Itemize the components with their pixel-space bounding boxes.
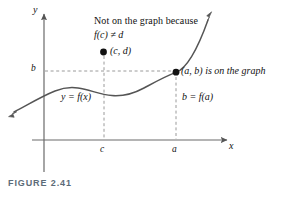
point-ab-label: (a, b) is on the graph (181, 66, 265, 76)
x-axis-label: x (229, 141, 233, 151)
figure-container: Not on the graph because f(c) ≠ d (c, d)… (0, 0, 285, 198)
b-equals-f-of-a-label: b = f(a) (182, 92, 213, 102)
x-axis-tick-label-a: a (172, 145, 177, 155)
point-ab-marker (173, 69, 180, 76)
not-on-graph-note-line2: f(c) ≠ d (94, 30, 123, 40)
curve-equation-label: y = f(x) (61, 92, 91, 102)
figure-caption: FIGURE 2.41 (8, 178, 72, 188)
y-axis-tick-label-b: b (31, 64, 36, 74)
x-axis-tick-label-c: c (100, 145, 104, 155)
point-cd-marker (100, 49, 107, 56)
graph-canvas (0, 0, 285, 198)
not-on-graph-note-line1: Not on the graph because (94, 16, 198, 26)
y-axis-label: y (33, 5, 37, 15)
point-cd-label: (c, d) (110, 46, 131, 56)
